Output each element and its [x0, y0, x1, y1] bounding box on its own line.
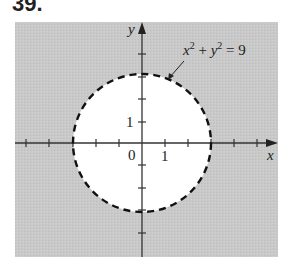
region-plot: y x 0 1 1 x2 + y2 = 9 [0, 0, 282, 265]
y-tick-label-1: 1 [126, 114, 134, 130]
y-axis-label: y [126, 21, 135, 37]
origin-label: 0 [128, 147, 136, 163]
x-tick-label-1: 1 [161, 148, 169, 164]
x-axis-label: x [266, 147, 274, 163]
